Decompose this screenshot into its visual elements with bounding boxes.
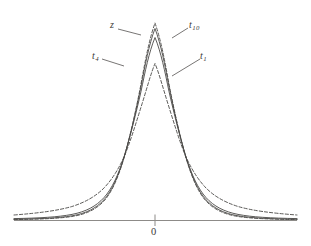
leader-line-z [118,29,141,35]
distribution-plot [0,0,311,246]
curve-label-z: z [110,20,114,30]
curve-label-t1-sub: 1 [203,55,207,62]
curve-t4 [14,38,297,219]
leader-line-t1 [172,59,200,76]
curve-label-z-text: z [110,19,114,30]
distribution-comparison-figure: z t10 t4 t1 0 [0,0,311,246]
leader-line-t10 [172,28,188,38]
curve-label-t4-sub: 4 [95,55,99,62]
curve-label-t4: t4 [92,51,99,61]
curve-label-t1: t1 [200,51,207,61]
curve-label-t10-sub: 10 [192,24,199,31]
curves-group [14,23,297,220]
curve-label-t10: t10 [189,20,199,30]
curve-z [14,23,297,220]
axis-tick-label-zero: 0 [151,227,156,238]
curve-t10 [14,29,297,220]
leader-line-t4 [102,59,124,66]
curve-t1 [14,64,297,216]
